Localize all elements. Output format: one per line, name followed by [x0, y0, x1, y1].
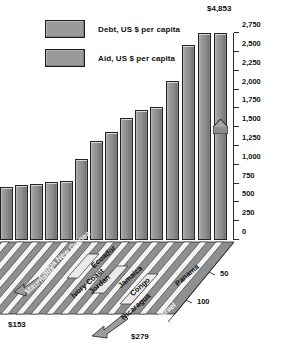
y-tick-label-750: 750: [242, 170, 255, 179]
data-label-israel-aid: $279: [131, 332, 149, 341]
y-tick-label-0: 0: [242, 227, 246, 236]
bar-israel-clip-arrow: [214, 121, 227, 147]
bar-panama: [166, 81, 179, 240]
chart-container: Debt, US $ per capita Aid, US $ per capi…: [0, 0, 285, 354]
bar-congo: [120, 118, 133, 240]
aid-tick-label-50: 50: [220, 269, 228, 278]
bar-item-13: [182, 45, 195, 240]
bar-item-8: [105, 132, 118, 240]
bar-item-3: [30, 184, 43, 241]
data-label-mauritania-aid: $153: [8, 320, 26, 329]
bar-nicaragua: [135, 110, 148, 240]
data-label-israel-debt: $4,853: [207, 4, 231, 13]
bar-group: [0, 33, 228, 240]
y-tick-label-1750: 1,750: [242, 95, 261, 104]
y-tick-label-2000: 2,000: [242, 76, 261, 85]
y-tick-label-2250: 2,250: [242, 57, 261, 66]
y-tick-label-2500: 2,500: [242, 38, 261, 47]
y-tick-label-2750: 2,750: [242, 20, 261, 29]
aid-tick-label-100: 100: [197, 297, 210, 306]
bar-item-11: [150, 107, 163, 240]
y-tick-label-250: 250: [242, 208, 255, 217]
arrow-up-icon: [213, 119, 228, 134]
y-axis: 0 250 500 750 1,000 1,250 1,500 1,750 2,…: [233, 33, 238, 240]
plot-area: $4,853: [0, 0, 285, 354]
bar-mauritania: [0, 187, 13, 240]
y-tick-label-1500: 1,500: [242, 114, 261, 123]
y-tick-label-500: 500: [242, 189, 255, 198]
bar-item-14: [198, 33, 211, 240]
bar-jordan: [60, 181, 73, 240]
y-tick-label-1250: 1,250: [242, 132, 261, 141]
bar-jamaica: [90, 141, 103, 240]
bar-papua-new-guinea: [15, 185, 28, 240]
bar-ivory-coast: [45, 182, 58, 240]
y-tick-label-1000: 1,000: [242, 151, 261, 160]
chart-floor-3d: Mauritania Papua New Guinea Ivory Coast …: [0, 236, 285, 354]
